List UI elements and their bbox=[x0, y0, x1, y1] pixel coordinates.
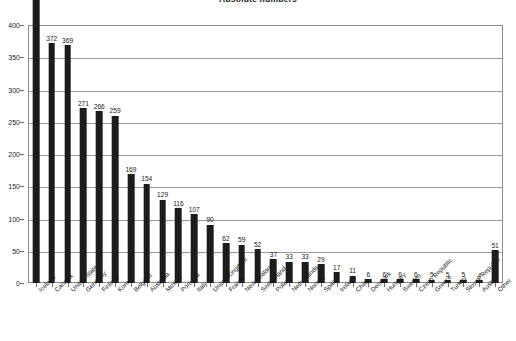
bar-slot[interactable]: 5 bbox=[456, 25, 472, 283]
bar-slot[interactable]: 169 bbox=[123, 25, 139, 283]
bar-value-label: 33 bbox=[301, 253, 308, 260]
bar-slot[interactable]: 90 bbox=[202, 25, 218, 283]
bar-slot[interactable]: 6 bbox=[392, 25, 408, 283]
bar-slot[interactable]: 59 bbox=[234, 25, 250, 283]
x-tick-mark bbox=[353, 283, 354, 287]
bar-value-label: 372 bbox=[46, 35, 57, 42]
x-tick-mark bbox=[242, 283, 243, 287]
bar-value-label: 129 bbox=[157, 191, 168, 198]
bar-slot[interactable]: 271 bbox=[76, 25, 92, 283]
x-axis-labels: IcelandCanadaUnited StatesGermanyFinland… bbox=[28, 288, 503, 341]
bar-value-label: 169 bbox=[125, 166, 136, 173]
bar-slot[interactable]: 6 bbox=[408, 25, 424, 283]
bar-value-label: 116 bbox=[173, 200, 184, 207]
bar[interactable] bbox=[175, 208, 182, 283]
y-tick-label: 400 bbox=[8, 22, 20, 29]
y-tick-mark bbox=[20, 186, 24, 187]
x-tick-mark bbox=[163, 283, 164, 287]
y-tick-label: 50 bbox=[12, 247, 20, 254]
bar-slot[interactable]: 33 bbox=[297, 25, 313, 283]
x-tick-mark bbox=[258, 283, 259, 287]
y-tick-label: 250 bbox=[8, 118, 20, 125]
bar-value-label: 107 bbox=[189, 206, 200, 213]
x-tick-mark bbox=[448, 283, 449, 287]
bar[interactable] bbox=[207, 225, 214, 283]
bar-slot[interactable]: 154 bbox=[139, 25, 155, 283]
y-tick-mark bbox=[20, 251, 24, 252]
bar-slot[interactable]: 51 bbox=[487, 25, 503, 283]
y-tick-mark bbox=[20, 57, 24, 58]
bar-chart: Absolute numbers 05010015020025030035040… bbox=[0, 0, 516, 341]
chart-title: Absolute numbers bbox=[0, 0, 516, 4]
bar-value-label: 52 bbox=[254, 241, 261, 248]
bar-value-label: 154 bbox=[141, 175, 152, 182]
bar-slot[interactable]: 266 bbox=[91, 25, 107, 283]
bar-slot[interactable]: 6 bbox=[376, 25, 392, 283]
bar-value-label: 51 bbox=[491, 242, 498, 249]
y-tick-mark bbox=[20, 122, 24, 123]
bar-value-label: 59 bbox=[238, 236, 245, 243]
bar-slot[interactable]: 52 bbox=[250, 25, 266, 283]
y-tick-label: 100 bbox=[8, 215, 20, 222]
y-tick-label: 200 bbox=[8, 151, 20, 158]
bar-slot[interactable]: 116 bbox=[171, 25, 187, 283]
bar[interactable] bbox=[96, 111, 103, 283]
bar-slot[interactable]: 11 bbox=[345, 25, 361, 283]
x-tick-mark bbox=[52, 283, 53, 287]
y-axis: 050100150200250300350400 bbox=[0, 25, 24, 283]
x-tick-mark bbox=[337, 283, 338, 287]
bar-value-label: 259 bbox=[110, 107, 121, 114]
bar-slot[interactable]: 6 bbox=[361, 25, 377, 283]
y-tick-mark bbox=[20, 283, 24, 284]
bar-value-label: 369 bbox=[62, 37, 73, 44]
bar-value-label: 29 bbox=[317, 256, 324, 263]
bar-slot[interactable]: 107 bbox=[186, 25, 202, 283]
bar-value-label: 90 bbox=[206, 216, 213, 223]
x-tick-mark bbox=[432, 283, 433, 287]
bar-value-label: 17 bbox=[333, 264, 340, 271]
bars-layer: 4713723692712662591691541291161079062595… bbox=[28, 25, 503, 283]
bar-slot[interactable]: 5 bbox=[440, 25, 456, 283]
bar-slot[interactable]: 62 bbox=[218, 25, 234, 283]
y-tick-mark bbox=[20, 25, 24, 26]
bar[interactable] bbox=[128, 174, 135, 283]
bar[interactable] bbox=[64, 45, 71, 283]
y-tick-label: 150 bbox=[8, 183, 20, 190]
bar-value-label: 37 bbox=[270, 251, 277, 258]
bar-slot[interactable]: 17 bbox=[329, 25, 345, 283]
bar[interactable] bbox=[80, 108, 87, 283]
bar-slot[interactable]: 471 bbox=[28, 25, 44, 283]
bar-slot[interactable]: 29 bbox=[313, 25, 329, 283]
bar-slot[interactable]: 4 bbox=[471, 25, 487, 283]
bar-value-label: 6 bbox=[367, 271, 371, 278]
bar-slot[interactable]: 129 bbox=[155, 25, 171, 283]
y-tick-mark bbox=[20, 154, 24, 155]
bar-value-label: 271 bbox=[78, 100, 89, 107]
bar[interactable] bbox=[48, 43, 55, 283]
y-tick-label: 350 bbox=[8, 54, 20, 61]
y-tick-mark bbox=[20, 219, 24, 220]
bar-slot[interactable]: 369 bbox=[60, 25, 76, 283]
bar-slot[interactable]: 5 bbox=[424, 25, 440, 283]
bar-slot[interactable]: 37 bbox=[266, 25, 282, 283]
x-tick-mark bbox=[147, 283, 148, 287]
y-tick-mark bbox=[20, 90, 24, 91]
x-tick-mark bbox=[68, 283, 69, 287]
bar-value-label: 266 bbox=[94, 103, 105, 110]
bar[interactable] bbox=[112, 116, 119, 283]
bar-value-label: 62 bbox=[222, 235, 229, 242]
bar-slot[interactable]: 259 bbox=[107, 25, 123, 283]
bar-slot[interactable]: 372 bbox=[44, 25, 60, 283]
y-tick-label: 300 bbox=[8, 86, 20, 93]
bar-slot[interactable]: 33 bbox=[281, 25, 297, 283]
bar[interactable] bbox=[143, 184, 150, 283]
bar[interactable] bbox=[33, 0, 40, 283]
bar-value-label: 33 bbox=[286, 253, 293, 260]
